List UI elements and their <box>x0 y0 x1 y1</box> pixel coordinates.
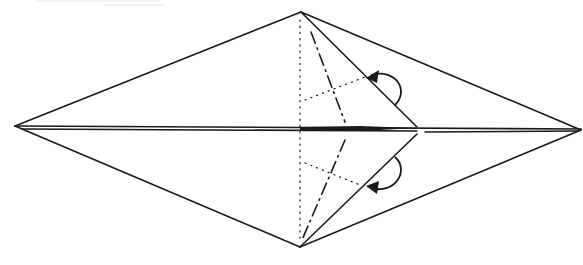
lower-flap-edge <box>300 134 417 247</box>
upper-flap-edge <box>301 12 417 127</box>
scan-artifact <box>35 1 165 5</box>
fold-behind-arrow-icon-lower <box>366 157 401 194</box>
fold-behind-arrow-icon-upper <box>366 70 401 105</box>
upper-right-edge <box>301 12 581 130</box>
lower-diagonal-valley-fold <box>305 163 360 185</box>
origami-diagram <box>0 0 583 265</box>
upper-diagonal-valley-fold <box>305 77 365 100</box>
lower-left-edge <box>15 126 300 247</box>
upper-mountain-fold <box>311 32 345 122</box>
center-flap <box>15 126 581 132</box>
upper-left-edge <box>15 12 301 126</box>
